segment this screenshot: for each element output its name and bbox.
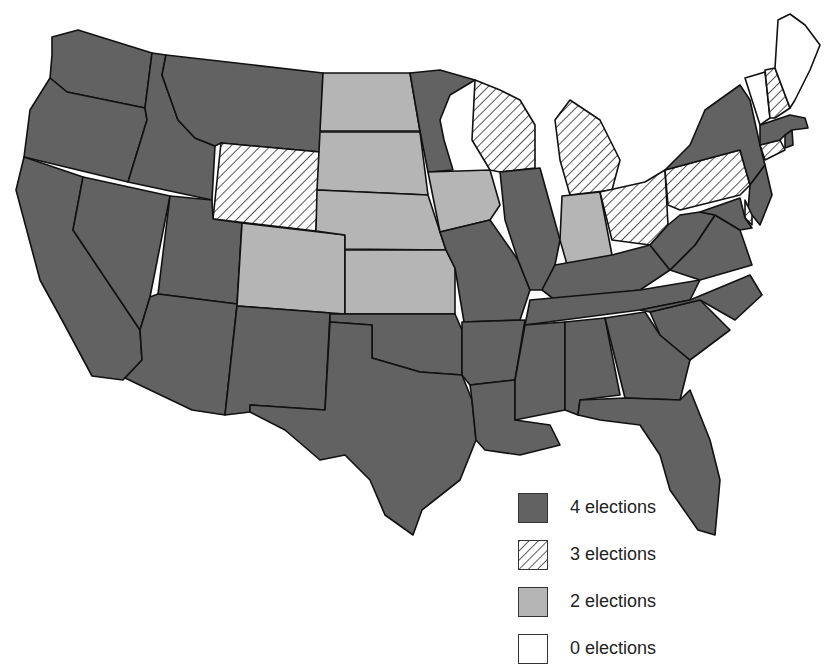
state-MS	[515, 322, 565, 420]
legend-label: 0 elections	[570, 638, 656, 659]
legend-swatch-hatched	[518, 540, 548, 570]
state-SD	[317, 132, 428, 195]
state-NM	[225, 306, 330, 415]
legend-swatch-light	[518, 587, 548, 617]
state-WI	[472, 80, 535, 172]
legend-item-2-elections: 2 elections	[518, 578, 656, 625]
state-ND	[320, 73, 420, 131]
legend-item-0-elections: 0 elections	[518, 625, 656, 672]
legend-swatch-dark	[518, 493, 548, 523]
state-WY	[213, 143, 320, 231]
us-map	[0, 0, 830, 672]
legend-label: 2 elections	[570, 591, 656, 612]
legend-item-4-elections: 4 elections	[518, 484, 656, 531]
legend-label: 4 elections	[570, 497, 656, 518]
legend-label: 3 elections	[570, 544, 656, 565]
legend-swatch-white	[518, 634, 548, 664]
state-CO	[237, 223, 345, 314]
state-MI	[555, 100, 620, 195]
legend-item-3-elections: 3 elections	[518, 531, 656, 578]
state-KS	[345, 250, 455, 314]
legend: 4 elections 3 elections 2 elections 0 el…	[518, 484, 656, 672]
